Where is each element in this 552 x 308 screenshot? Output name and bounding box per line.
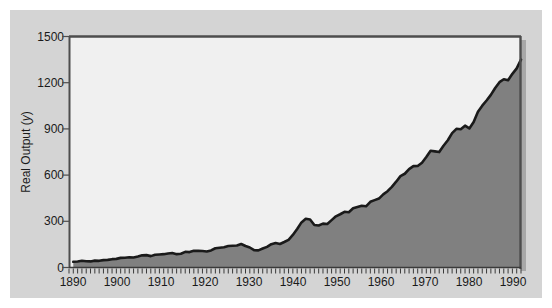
x-tick-label: 1930 [236, 275, 263, 289]
x-tick-label: 1970 [412, 275, 439, 289]
x-axis-minor-ticks [69, 269, 521, 274]
x-tick-label: 1920 [192, 275, 219, 289]
x-tick-label: 1940 [280, 275, 307, 289]
x-tick-label: 1900 [104, 275, 131, 289]
x-axis-tick-labels: 1890 1900 1910 1920 1930 1940 1950 1960 … [60, 275, 527, 289]
y-tick-label: 1200 [37, 76, 64, 90]
x-tick-label: 1990 [500, 275, 527, 289]
y-axis-tick-labels: 1500 1200 900 600 300 0 [37, 30, 64, 275]
chart-figure: 1500 1200 900 600 300 0 1890 1900 1910 1… [0, 0, 552, 308]
y-tick-label: 900 [44, 122, 64, 136]
x-tick-label: 1910 [148, 275, 175, 289]
x-tick-label: 1950 [324, 275, 351, 289]
y-axis-ticks [62, 37, 69, 268]
x-tick-label: 1960 [368, 275, 395, 289]
plot-frame-shadow-right [521, 40, 526, 271]
x-tick-label: 1980 [456, 275, 483, 289]
y-tick-label: 1500 [37, 30, 64, 44]
y-tick-label: 300 [44, 214, 64, 228]
y-tick-label: 600 [44, 168, 64, 182]
x-tick-label: 1890 [60, 275, 87, 289]
real-output-area-chart: 1500 1200 900 600 300 0 1890 1900 1910 1… [0, 0, 552, 308]
y-axis-title: Real Output (y) [19, 111, 33, 192]
